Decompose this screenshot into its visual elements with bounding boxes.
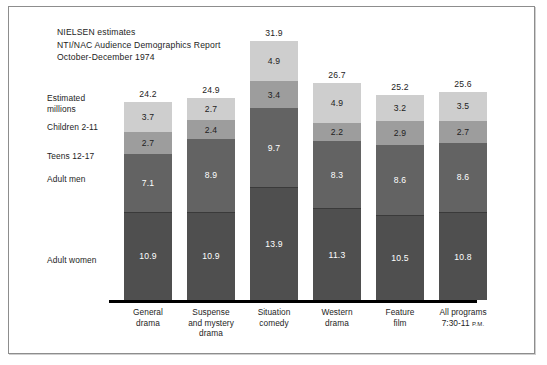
bar-segment-teens: 3.4: [250, 81, 298, 109]
bar-segment-adult-men: 8.3: [313, 141, 361, 208]
category-label-line: Situation: [250, 307, 298, 318]
bar-segment-adult-women: 10.8: [439, 212, 487, 300]
bar-column: 31.94.93.49.713.9: [250, 28, 298, 300]
category-label-line: and mystery: [187, 318, 235, 329]
bar-segment-adult-women: 10.9: [187, 212, 235, 300]
bar-segment-teens: 2.4: [187, 120, 235, 139]
bar-segment-adult-women: 10.9: [124, 212, 172, 300]
bar-segment-teens: 2.9: [376, 121, 424, 145]
bar-column: 24.92.72.48.910.9: [187, 85, 235, 300]
category-label: Suspenseand mysterydrama: [187, 307, 235, 339]
bar-column: 25.23.22.98.610.5: [376, 82, 424, 300]
category-label-line: drama: [124, 318, 172, 329]
stacked-bar-group: 24.23.72.77.110.924.92.72.48.910.931.94.…: [124, 27, 487, 300]
bar-total-label: 31.9: [250, 28, 298, 38]
row-label-children: Children 2-11: [47, 122, 98, 133]
bar-segment-children: 4.9: [313, 83, 361, 123]
category-label-line: drama: [313, 318, 361, 329]
bar-segment-adult-men: 8.6: [439, 143, 487, 213]
estimated-line-2: millions: [47, 104, 85, 115]
category-label-line: film: [376, 318, 424, 329]
category-label-line: Suspense: [187, 307, 235, 318]
category-label-line: 7:30-11 P.M.: [439, 318, 487, 330]
row-label-adult-women: Adult women: [47, 255, 97, 266]
category-label-line: Feature: [376, 307, 424, 318]
category-label-line: General: [124, 307, 172, 318]
category-label: Situationcomedy: [250, 307, 298, 339]
bar-total-label: 25.6: [439, 79, 487, 89]
category-label-line: comedy: [250, 318, 298, 329]
row-label-teens: Teens 12-17: [47, 151, 94, 162]
bar-segment-adult-men: 8.9: [187, 139, 235, 211]
bar-segment-adult-women: 13.9: [250, 187, 298, 300]
ampm-suffix: P.M.: [472, 321, 484, 327]
baseline-axis: [109, 300, 477, 303]
bar-segment-children: 2.7: [187, 98, 235, 120]
estimated-line-1: Estimated: [47, 93, 85, 104]
category-label-row: GeneraldramaSuspenseand mysterydramaSitu…: [124, 307, 487, 339]
bar-column: 24.23.72.77.110.9: [124, 89, 172, 300]
bar-segment-adult-women: 11.3: [313, 208, 361, 300]
category-label-line: All programs: [439, 307, 487, 318]
bar-total-label: 25.2: [376, 82, 424, 92]
plot-area: 24.23.72.77.110.924.92.72.48.910.931.94.…: [109, 27, 509, 300]
category-label: Westerndrama: [313, 307, 361, 339]
chart-frame: NIELSEN estimates NTI/NAC Audience Demog…: [8, 6, 535, 354]
bar-segment-adult-women: 10.5: [376, 215, 424, 300]
bar-segment-children: 3.7: [124, 102, 172, 132]
bar-segment-adult-men: 7.1: [124, 154, 172, 212]
bar-segment-teens: 2.7: [439, 121, 487, 143]
category-label-line: drama: [187, 328, 235, 339]
bar-column: 25.63.52.78.610.8: [439, 79, 487, 300]
row-label-estimated-millions: Estimated millions: [47, 93, 85, 115]
bar-segment-adult-men: 9.7: [250, 108, 298, 187]
bar-segment-children: 3.5: [439, 92, 487, 120]
bar-segment-adult-men: 8.6: [376, 145, 424, 215]
category-label: Generaldrama: [124, 307, 172, 339]
bar-segment-teens: 2.7: [124, 132, 172, 154]
bar-segment-children: 4.9: [250, 41, 298, 81]
bar-total-label: 24.9: [187, 85, 235, 95]
bar-segment-teens: 2.2: [313, 123, 361, 141]
bar-segment-children: 3.2: [376, 95, 424, 121]
category-label-line: Western: [313, 307, 361, 318]
category-label: All programs7:30-11 P.M.: [439, 307, 487, 339]
bar-total-label: 24.2: [124, 89, 172, 99]
bar-total-label: 26.7: [313, 70, 361, 80]
category-label: Featurefilm: [376, 307, 424, 339]
bar-column: 26.74.92.28.311.3: [313, 70, 361, 300]
row-label-adult-men: Adult men: [47, 174, 86, 185]
